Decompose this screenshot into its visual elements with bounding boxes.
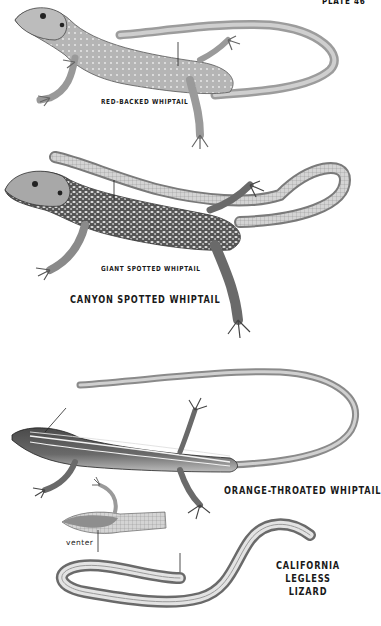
label-red-backed-whiptail: RED-BACKED WHIPTAIL	[101, 98, 188, 106]
legless-line-3: LIZARD	[275, 585, 341, 598]
label-california-legless-lizard: CALIFORNIA LEGLESS LIZARD	[268, 559, 348, 598]
legless-line-1: CALIFORNIA	[275, 559, 341, 572]
label-giant-spotted-whiptail: GIANT SPOTTED WHIPTAIL	[101, 265, 201, 273]
orange-throated-whiptail-illustration	[12, 372, 356, 519]
canyon-spotted-whiptail-illustration	[5, 157, 345, 338]
label-orange-throated-whiptail: ORANGE-THROATED WHIPTAIL	[224, 485, 381, 496]
red-backed-whiptail-illustration	[15, 8, 334, 149]
label-canyon-spotted-whiptail: CANYON SPOTTED WHIPTAIL	[70, 294, 220, 305]
legless-line-2: LEGLESS	[275, 572, 341, 585]
label-venter: venter	[66, 538, 93, 547]
